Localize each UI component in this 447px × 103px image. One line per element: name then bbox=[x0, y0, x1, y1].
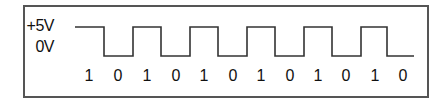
bit-label: 0 bbox=[393, 67, 413, 85]
bit-label: 0 bbox=[223, 67, 243, 85]
bit-label: 1 bbox=[194, 67, 214, 85]
bit-label: 1 bbox=[251, 67, 271, 85]
bit-label: 0 bbox=[336, 67, 356, 85]
bit-label: 1 bbox=[365, 67, 385, 85]
square-waveform bbox=[0, 0, 447, 103]
bit-label: 1 bbox=[137, 67, 157, 85]
bit-label: 0 bbox=[280, 67, 300, 85]
bit-label: 0 bbox=[166, 67, 186, 85]
waveform-path bbox=[75, 27, 414, 56]
bit-sequence: 101010101010 bbox=[0, 67, 447, 85]
bit-label: 1 bbox=[79, 67, 99, 85]
bit-label: 0 bbox=[108, 67, 128, 85]
bit-label: 1 bbox=[308, 67, 328, 85]
